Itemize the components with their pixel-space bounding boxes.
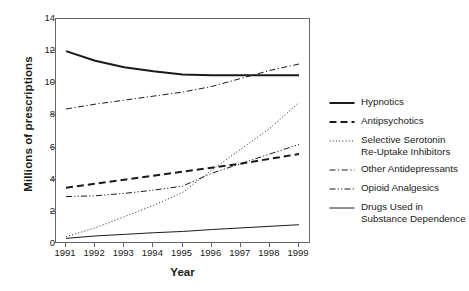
x-tick-mark xyxy=(152,243,153,247)
line-chart-figure: Millions of prescriptions 02468101214 19… xyxy=(0,0,469,291)
legend-item[interactable]: Selective Serotonin Re-Uptake Inhibitors xyxy=(329,134,469,157)
legend-label: Selective Serotonin Re-Uptake Inhibitors xyxy=(361,134,450,157)
chart-legend: HypnoticsAntipsychoticsSelective Seroton… xyxy=(329,96,469,230)
legend-item[interactable]: Antipsychotics xyxy=(329,115,469,128)
legend-item[interactable]: Opioid Analgesics xyxy=(329,182,469,195)
x-tick-mark xyxy=(182,243,183,247)
legend-label: Drugs Used in Substance Dependence xyxy=(361,201,466,224)
x-tick-mark xyxy=(240,243,241,247)
legend-item[interactable]: Hypnotics xyxy=(329,96,469,109)
legend-label: Opioid Analgesics xyxy=(361,182,439,194)
legend-label: Hypnotics xyxy=(361,96,404,108)
x-tick-mark xyxy=(123,243,124,247)
x-axis-title: Year xyxy=(55,266,310,278)
x-tick-mark xyxy=(211,243,212,247)
x-tick-mark xyxy=(298,243,299,247)
legend-label: Other Antidepressants xyxy=(361,163,458,175)
x-tick-mark xyxy=(94,243,95,247)
legend-line-swatch xyxy=(329,97,355,109)
x-tick-mark xyxy=(65,243,66,247)
legend-line-swatch xyxy=(329,135,355,147)
legend-item[interactable]: Other Antidepressants xyxy=(329,163,469,176)
x-tick-label: 1999 xyxy=(278,247,318,258)
legend-label: Antipsychotics xyxy=(361,115,424,127)
x-tick-mark xyxy=(269,243,270,247)
legend-line-swatch xyxy=(329,164,355,176)
legend-line-swatch xyxy=(329,183,355,195)
legend-line-swatch xyxy=(329,202,355,214)
legend-item[interactable]: Drugs Used in Substance Dependence xyxy=(329,201,469,224)
legend-line-swatch xyxy=(329,116,355,128)
